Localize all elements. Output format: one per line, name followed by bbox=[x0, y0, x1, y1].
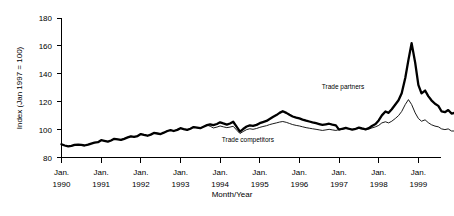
annotation-trade-partners: Trade partners bbox=[322, 83, 365, 91]
x-tick-label-year: 1997 bbox=[330, 180, 348, 189]
y-tick-label: 120 bbox=[39, 98, 53, 107]
series-group bbox=[62, 43, 454, 146]
x-tick-label-month: Jan. bbox=[292, 168, 307, 177]
annotation-trade-competitors: Trade competitors bbox=[222, 136, 275, 144]
y-tick-label: 180 bbox=[39, 14, 53, 23]
y-tick-label: 100 bbox=[39, 126, 53, 135]
y-axis-title: Index (Jan 1997 = 100) bbox=[15, 46, 24, 129]
x-tick-label-month: Jan. bbox=[331, 168, 346, 177]
x-tick-label-month: Jan. bbox=[213, 168, 228, 177]
annotation-group: Trade partnersTrade competitors bbox=[222, 83, 365, 144]
y-tick-label: 80 bbox=[43, 154, 52, 163]
y-tick-label-group: 80100120140160180 bbox=[39, 14, 53, 163]
chart-container: 80100120140160180 Index (Jan 1997 = 100)… bbox=[0, 0, 454, 216]
x-tick-label-month: Jan. bbox=[371, 168, 386, 177]
y-tick-group bbox=[57, 18, 62, 158]
x-tick-label-year: 1998 bbox=[370, 180, 388, 189]
y-tick-label: 140 bbox=[39, 70, 53, 79]
x-tick-label-month: Jan. bbox=[94, 168, 109, 177]
x-tick-label-year: 1999 bbox=[409, 180, 427, 189]
x-tick-label-year: 1996 bbox=[291, 180, 309, 189]
x-tick-label-month: Jan. bbox=[54, 168, 69, 177]
x-tick-label-year: 1994 bbox=[211, 180, 229, 189]
x-axis: Jan.1990Jan.1991Jan.1992Jan.1993Jan.1994… bbox=[53, 158, 441, 200]
line-chart: 80100120140160180 Index (Jan 1997 = 100)… bbox=[0, 0, 454, 216]
x-tick-label-year: 1993 bbox=[172, 180, 190, 189]
x-tick-label-group: Jan.1990Jan.1991Jan.1992Jan.1993Jan.1994… bbox=[53, 168, 428, 189]
x-tick-group bbox=[62, 158, 419, 163]
x-tick-label-year: 1990 bbox=[53, 180, 71, 189]
series-line-trade-partners bbox=[62, 43, 454, 146]
x-tick-label-year: 1991 bbox=[92, 180, 110, 189]
x-tick-label-month: Jan. bbox=[252, 168, 267, 177]
x-tick-label-month: Jan. bbox=[133, 168, 148, 177]
x-tick-label-month: Jan. bbox=[173, 168, 188, 177]
x-tick-label-year: 1995 bbox=[251, 180, 269, 189]
x-tick-label-year: 1992 bbox=[132, 180, 150, 189]
y-tick-label: 160 bbox=[39, 42, 53, 51]
x-tick-label-month: Jan. bbox=[411, 168, 426, 177]
y-axis: 80100120140160180 Index (Jan 1997 = 100) bbox=[15, 14, 62, 163]
x-axis-title: Month/Year bbox=[212, 190, 253, 199]
